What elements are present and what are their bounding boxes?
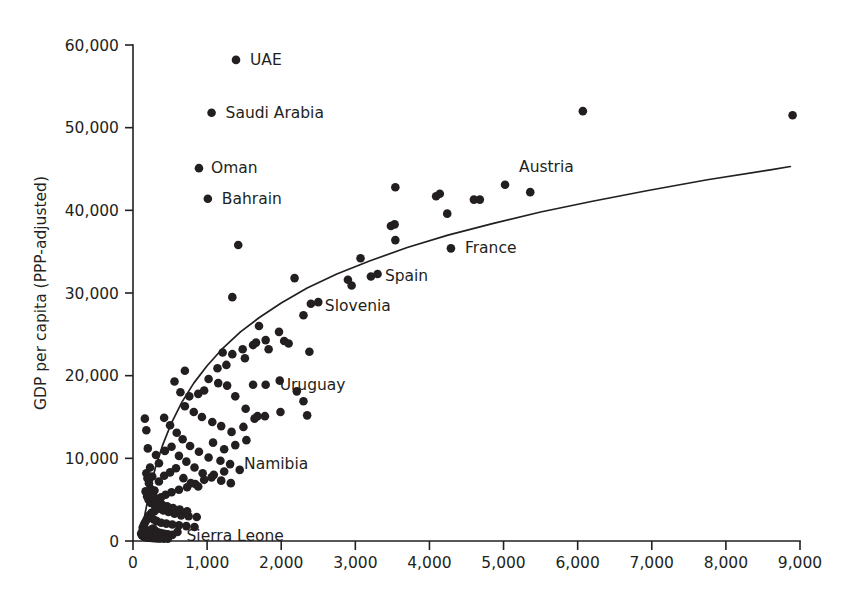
data-point (195, 164, 204, 173)
point-label: Slovenia (325, 297, 391, 315)
data-point (172, 464, 181, 473)
data-point (231, 392, 240, 401)
point-label: Oman (211, 159, 258, 177)
data-point (227, 479, 236, 488)
data-point (228, 350, 237, 359)
data-point (390, 220, 399, 229)
data-point (222, 361, 231, 370)
x-tick-label: 4,000 (407, 554, 451, 572)
data-point (579, 107, 588, 116)
data-point (220, 445, 229, 454)
data-point (175, 485, 184, 494)
data-point (160, 414, 169, 423)
x-tick-label: 8,000 (704, 554, 748, 572)
data-point (207, 108, 216, 117)
point-label: France (465, 239, 517, 257)
data-point (347, 281, 356, 290)
data-point (209, 471, 218, 480)
data-point (447, 244, 456, 253)
data-point (186, 442, 195, 451)
data-point (249, 380, 258, 389)
data-point (501, 180, 510, 189)
x-tick-label: 0 (128, 554, 138, 572)
data-point (314, 298, 323, 307)
data-point (241, 404, 250, 413)
y-tick-label: 60,000 (65, 37, 119, 55)
x-tick-label: 5,000 (481, 554, 525, 572)
data-point (204, 194, 213, 203)
data-point (284, 339, 293, 348)
data-point (227, 428, 236, 437)
data-point (185, 392, 194, 401)
data-point (214, 379, 223, 388)
data-point (436, 190, 445, 199)
data-point (242, 436, 251, 445)
data-point (144, 444, 153, 453)
point-label: Bahrain (222, 190, 282, 208)
point-label: Saudi Arabia (226, 104, 324, 122)
data-point (142, 426, 151, 435)
point-label: Namibia (244, 455, 308, 473)
data-point (194, 390, 203, 399)
y-tick-label: 20,000 (65, 367, 119, 385)
data-point (788, 111, 797, 120)
data-point (175, 452, 184, 461)
data-point (209, 438, 218, 447)
data-point (141, 414, 150, 423)
data-point (261, 336, 270, 345)
data-point (231, 441, 240, 450)
x-tick-label: 6,000 (555, 554, 599, 572)
point-labels: UAESaudi ArabiaOmanBahrainAustriaFranceS… (187, 51, 574, 545)
y-axis: 010,00020,00030,00040,00050,00060,000 (65, 37, 133, 551)
data-point (218, 348, 227, 357)
data-point (276, 408, 285, 417)
data-point (264, 345, 273, 354)
data-point (220, 467, 229, 476)
data-point (150, 507, 159, 516)
data-point (217, 476, 226, 485)
data-point (391, 183, 400, 192)
data-point (261, 412, 270, 421)
data-point (373, 270, 382, 279)
data-point (204, 375, 213, 384)
data-points (137, 56, 797, 543)
point-label: Sierra Leone (187, 527, 284, 545)
data-point (173, 528, 182, 537)
data-point (204, 453, 213, 462)
data-point (181, 402, 190, 411)
data-point (198, 413, 207, 422)
x-tick-label: 2,000 (259, 554, 303, 572)
point-label: UAE (250, 51, 282, 69)
data-point (178, 435, 187, 444)
data-point (142, 469, 151, 478)
x-tick-label: 1,000 (185, 554, 229, 572)
data-point (182, 457, 191, 466)
data-point (356, 254, 365, 263)
data-point (305, 347, 314, 356)
data-point (241, 354, 250, 363)
data-point (162, 532, 171, 541)
data-point (232, 56, 241, 65)
y-axis-title-text: GDP per capita (PPP-adjusted) (32, 176, 50, 410)
data-point (172, 428, 181, 437)
data-point (155, 459, 164, 468)
x-tick-label: 9,000 (778, 554, 822, 572)
data-point (526, 188, 535, 197)
x-tick-label: 7,000 (630, 554, 674, 572)
y-tick-label: 40,000 (65, 202, 119, 220)
y-axis-title: GDP per capita (PPP-adjusted) (32, 176, 50, 410)
data-point (175, 505, 184, 514)
data-point (223, 381, 232, 390)
data-point (234, 241, 243, 250)
point-label: Uruguay (280, 376, 346, 394)
y-tick-label: 50,000 (65, 119, 119, 137)
data-point (235, 466, 244, 475)
data-point (239, 423, 248, 432)
data-point (208, 418, 217, 427)
point-label: Spain (385, 267, 428, 285)
data-point (303, 411, 312, 420)
data-point (187, 479, 196, 488)
data-point (195, 447, 204, 456)
data-point (238, 345, 247, 354)
data-point (228, 293, 237, 302)
